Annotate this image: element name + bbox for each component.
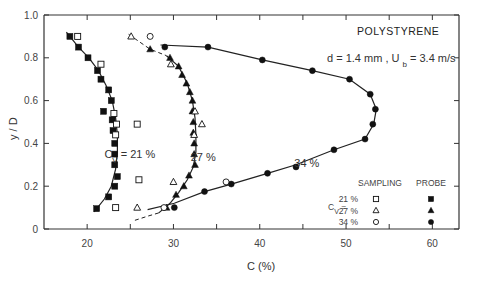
open-square-marker [373, 196, 378, 201]
legend-row-label: 21 % [339, 194, 359, 204]
filled-square-marker [112, 140, 118, 146]
filled-square-marker [67, 33, 73, 39]
x-tick-label: 60 [427, 238, 439, 249]
filled-circle-marker [309, 68, 315, 74]
open-square-marker [113, 132, 119, 138]
curve-34 [148, 45, 377, 210]
chart-title: POLYSTYRENE [357, 25, 439, 37]
filled-triangle-marker [147, 46, 154, 52]
legend-header-sampling: SAMPLING [358, 178, 402, 188]
open-triangle-marker [128, 33, 135, 39]
open-triangle-marker [373, 207, 379, 212]
legend-header-probe: PROBE [416, 178, 446, 188]
open-square-marker [75, 33, 81, 39]
filled-triangle-marker [428, 207, 434, 212]
filled-square-marker [106, 87, 112, 93]
filled-square-marker [428, 196, 433, 201]
subtitle-d: d = 1.4 mm , U [327, 52, 399, 64]
open-square-marker [134, 121, 140, 127]
filled-square-marker [85, 55, 91, 61]
filled-square-marker [76, 44, 82, 50]
filled-circle-marker [202, 189, 208, 195]
open-triangle-marker [170, 178, 177, 184]
filled-circle-marker [347, 76, 353, 82]
x-tick-label: 40 [254, 238, 266, 249]
filled-circle-marker [162, 44, 168, 50]
y-axis-label: y / D [7, 117, 19, 140]
open-circle-marker [161, 205, 167, 211]
filled-square-marker [94, 206, 100, 212]
y-tick-label: 0.2 [24, 181, 38, 192]
filled-circle-marker [370, 121, 376, 127]
y-tick-label: 0.4 [24, 138, 38, 149]
filled-circle-marker [259, 57, 265, 63]
filled-square-marker [114, 174, 120, 180]
filled-circle-marker [372, 106, 378, 112]
annotation-cv-21: CV = 21 % [104, 148, 155, 165]
filled-triangle-marker [179, 71, 186, 77]
filled-circle-marker [265, 170, 271, 176]
y-tick-label: 1.0 [24, 10, 38, 21]
curve-annotations: CV = 21 %27 %34 % [104, 148, 319, 169]
filled-triangle-marker [191, 140, 198, 146]
open-square-marker [113, 205, 119, 211]
filled-circle-marker [171, 205, 177, 211]
filled-triangle-marker [186, 172, 193, 178]
filled-circle-marker [428, 219, 433, 224]
legend-row-label: 34 % [339, 217, 359, 227]
filled-circle-marker [362, 136, 368, 142]
legend: SAMPLINGPROBECV =21 %27 %34 % [328, 178, 446, 227]
filled-circle-marker [367, 91, 373, 97]
open-square-marker [136, 177, 142, 183]
open-triangle-marker [199, 121, 206, 127]
axes: 203040506000.20.40.60.81.0 [24, 10, 459, 250]
filled-square-marker [112, 183, 118, 189]
open-circle-marker [147, 33, 153, 39]
filled-triangle-marker [186, 88, 193, 94]
filled-circle-marker [205, 44, 211, 50]
x-axis-label: C (%) [247, 260, 275, 272]
x-tick-label: 50 [340, 238, 352, 249]
y-tick-label: 0 [32, 224, 38, 235]
open-square-marker [111, 110, 117, 116]
legend-row-label: 27 % [339, 206, 359, 216]
filled-square-marker [95, 68, 101, 74]
filled-square-marker [101, 108, 107, 114]
open-square-marker [113, 121, 119, 127]
filled-triangle-marker [180, 183, 187, 189]
chart: 203040506000.20.40.60.81.0 POLYSTYRENE d… [0, 0, 489, 281]
chart-subtitle: d = 1.4 mm , U b = 3.4 m/s [327, 52, 456, 69]
filled-circle-marker [331, 147, 337, 153]
annotation-34: 34 % [294, 157, 319, 169]
annotation-27: 27 % [191, 151, 216, 163]
x-tick-label: 30 [168, 238, 180, 249]
y-tick-label: 0.6 [24, 95, 38, 106]
open-triangle-marker [134, 204, 141, 210]
open-circle-marker [373, 219, 378, 224]
x-tick-label: 20 [82, 238, 94, 249]
curve-27-dashed-bottom [135, 213, 159, 221]
open-square-marker [98, 61, 104, 67]
filled-triangle-marker [183, 80, 190, 86]
filled-square-marker [108, 98, 114, 104]
filled-square-marker [98, 76, 104, 82]
y-tick-label: 0.8 [24, 52, 38, 63]
filled-square-marker [106, 194, 112, 200]
subtitle-rest: = 3.4 m/s [407, 52, 456, 64]
filled-triangle-marker [189, 97, 196, 103]
open-circle-marker [223, 179, 229, 185]
